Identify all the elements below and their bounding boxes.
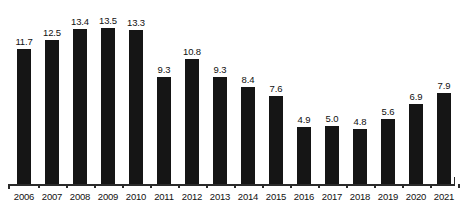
bar [17, 49, 31, 184]
x-axis-tick-label: 2017 [318, 190, 346, 203]
x-axis-tick-label: 2019 [374, 190, 402, 203]
bar-value-label: 13.4 [66, 16, 94, 27]
bar-value-label: 4.8 [346, 116, 374, 127]
bar-group: 4.9 [290, 0, 318, 184]
x-axis-line [8, 184, 455, 186]
bar-value-label: 5.6 [374, 106, 402, 117]
bar-group: 5.0 [318, 0, 346, 184]
bar [269, 96, 283, 184]
x-axis-tick [458, 184, 460, 188]
bar [129, 30, 143, 184]
bar-group: 9.3 [150, 0, 178, 184]
x-axis-tick-label: 2010 [122, 190, 150, 203]
x-axis-tick [122, 184, 124, 188]
bar [101, 28, 115, 184]
bar-group: 9.3 [206, 0, 234, 184]
bar-group: 12.5 [38, 0, 66, 184]
bar-group: 7.9 [430, 0, 458, 184]
bar [73, 29, 87, 184]
x-axis-tick [430, 184, 432, 188]
x-axis-tick [94, 184, 96, 188]
bar [45, 40, 59, 184]
x-axis-tick [206, 184, 208, 188]
x-axis-tick-label: 2007 [38, 190, 66, 203]
bar [297, 127, 311, 184]
bar-group: 13.5 [94, 0, 122, 184]
bar-value-label: 13.5 [94, 15, 122, 26]
x-axis-category-labels: 2006200720082009201020112012201320142015… [0, 190, 468, 206]
bar-group: 4.8 [346, 0, 374, 184]
x-axis-tick-label: 2013 [206, 190, 234, 203]
bar [381, 119, 395, 184]
x-axis-tick [374, 184, 376, 188]
bar [409, 104, 423, 184]
x-axis-tick-label: 2009 [94, 190, 122, 203]
bar [213, 77, 227, 184]
bar-value-label: 7.6 [262, 83, 290, 94]
bar-group: 13.3 [122, 0, 150, 184]
bar [185, 59, 199, 184]
bar-value-label: 9.3 [206, 64, 234, 75]
x-axis-tick-label: 2020 [402, 190, 430, 203]
x-axis-left-cap [8, 184, 10, 189]
bar-group: 7.6 [262, 0, 290, 184]
x-axis-tick [318, 184, 320, 188]
x-axis-tick [262, 184, 264, 188]
bar-group: 13.4 [66, 0, 94, 184]
plot-area: 11.712.513.413.513.39.310.89.38.47.64.95… [0, 0, 468, 184]
x-axis-right-cap [454, 177, 456, 185]
x-axis-tick [150, 184, 152, 188]
bar-value-label: 10.8 [178, 46, 206, 57]
x-axis-tick [402, 184, 404, 188]
x-axis-tick-label: 2021 [430, 190, 458, 203]
x-axis-tick [66, 184, 68, 188]
bar [241, 87, 255, 184]
x-axis-tick-label: 2006 [10, 190, 38, 203]
bar-value-label: 6.9 [402, 91, 430, 102]
bar-value-label: 12.5 [38, 27, 66, 38]
bar-group: 6.9 [402, 0, 430, 184]
x-axis-tick [346, 184, 348, 188]
x-axis-tick-label: 2016 [290, 190, 318, 203]
bar [437, 93, 451, 184]
bar-group: 8.4 [234, 0, 262, 184]
x-axis-tick-label: 2011 [150, 190, 178, 203]
x-axis-tick-label: 2018 [346, 190, 374, 203]
x-axis-tick [38, 184, 40, 188]
bar [353, 129, 367, 184]
bar-group: 10.8 [178, 0, 206, 184]
bar-value-label: 9.3 [150, 64, 178, 75]
x-axis-tick [178, 184, 180, 188]
x-axis-tick-label: 2015 [262, 190, 290, 203]
x-axis-tick-label: 2012 [178, 190, 206, 203]
bar-chart: 11.712.513.413.513.39.310.89.38.47.64.95… [0, 0, 468, 218]
bar-value-label: 8.4 [234, 74, 262, 85]
bar-value-label: 5.0 [318, 113, 346, 124]
bar-value-label: 11.7 [10, 36, 38, 47]
bar-group: 5.6 [374, 0, 402, 184]
x-axis-tick [290, 184, 292, 188]
x-axis-tick-label: 2014 [234, 190, 262, 203]
bar-group: 11.7 [10, 0, 38, 184]
x-axis-tick [234, 184, 236, 188]
bar [157, 77, 171, 184]
x-axis-tick-label: 2008 [66, 190, 94, 203]
bar-value-label: 13.3 [122, 17, 150, 28]
bar-value-label: 7.9 [430, 80, 458, 91]
bar-value-label: 4.9 [290, 114, 318, 125]
bar [325, 126, 339, 184]
